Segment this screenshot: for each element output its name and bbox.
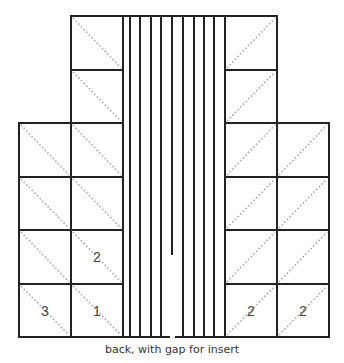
diagonal-dotted-line — [21, 179, 69, 228]
square-block — [71, 123, 123, 177]
diagonal-dotted-line — [279, 232, 327, 282]
diagonal-dotted-line — [227, 18, 275, 68]
square-block — [71, 177, 123, 230]
diagonal-dotted-line — [279, 125, 327, 175]
right-square-blocks: 22 — [225, 16, 329, 337]
square-block — [19, 123, 71, 177]
square-block — [225, 123, 277, 177]
block-number: 2 — [93, 249, 101, 265]
diagonal-dotted-line — [73, 179, 121, 228]
square-block — [225, 177, 277, 230]
diagram-caption: back, with gap for insert — [0, 343, 344, 356]
diagonal-dotted-line — [73, 125, 121, 175]
pattern-diagram: 231 22 — [0, 0, 344, 340]
square-block: 3 — [19, 284, 71, 337]
square-block: 2 — [225, 284, 277, 337]
diagonal-dotted-line — [227, 125, 275, 175]
square-block — [225, 230, 277, 284]
square-block — [19, 177, 71, 230]
square-block — [225, 16, 277, 70]
square-block — [277, 177, 329, 230]
diagonal-dotted-line — [21, 232, 69, 282]
diagonal-dotted-line — [227, 179, 275, 228]
diagonal-dotted-line — [227, 232, 275, 282]
square-block — [71, 16, 123, 70]
block-number: 3 — [41, 303, 49, 319]
diagonal-dotted-line — [279, 179, 327, 228]
diagonal-dotted-line — [227, 72, 275, 121]
left-square-blocks: 231 — [19, 16, 123, 337]
diagonal-dotted-line — [73, 72, 121, 121]
square-block: 2 — [71, 230, 123, 284]
square-block — [277, 230, 329, 284]
block-number: 2 — [299, 303, 307, 319]
diagonal-dotted-line — [73, 18, 121, 68]
square-block — [225, 70, 277, 123]
square-block: 1 — [71, 284, 123, 337]
square-block: 2 — [277, 284, 329, 337]
square-block — [19, 230, 71, 284]
diagonal-dotted-line — [21, 125, 69, 175]
square-block — [71, 70, 123, 123]
center-stripes — [123, 16, 225, 337]
block-number: 2 — [247, 303, 255, 319]
block-number: 1 — [93, 303, 101, 319]
square-block — [277, 123, 329, 177]
